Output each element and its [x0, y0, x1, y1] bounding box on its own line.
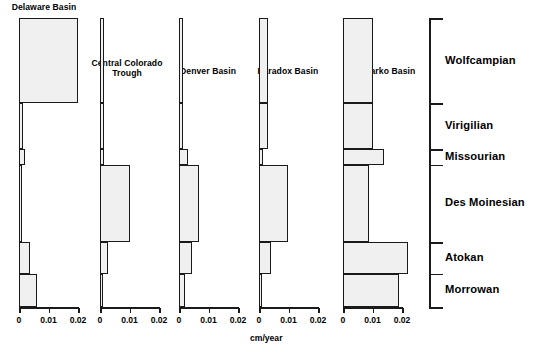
bar-5-des-moinesian: [343, 165, 369, 242]
bar-4-morrowan: [259, 274, 262, 307]
bar-5-morrowan: [343, 274, 399, 307]
x-tick-1-0: [19, 308, 21, 313]
x-tick-2-0: [100, 308, 102, 313]
x-tick-4-0: [259, 308, 261, 313]
stage-bracket-tick-6: [429, 307, 443, 309]
stage-label-virigilian: Virigilian: [445, 119, 493, 131]
bar-5-wolfcampian: [343, 18, 373, 103]
x-tick-4-1: [289, 308, 291, 313]
stage-label-atokan: Atokan: [445, 251, 484, 263]
stage-bracket-tick-4: [429, 242, 443, 244]
bar-4-atokan: [259, 242, 271, 274]
bar-2-missourian: [100, 149, 104, 164]
stage-bracket-tick-3: [429, 165, 443, 167]
bar-1-morrowan: [19, 274, 37, 307]
sedimentation-rate-figure: Delaware Basin00.010.02Central Colorado …: [0, 0, 555, 357]
bar-3-wolfcampian: [179, 18, 183, 103]
stage-bracket-tick-2: [429, 149, 443, 151]
x-tick-2-2: [159, 308, 161, 313]
stage-bracket-tick-1: [429, 103, 443, 105]
bar-3-des-moinesian: [179, 165, 199, 242]
x-tick-5-0: [343, 308, 345, 313]
bar-4-wolfcampian: [259, 18, 268, 103]
bar-1-des-moinesian: [19, 165, 22, 242]
stage-label-morrowan: Morrowan: [445, 283, 499, 295]
x-tick-4-2: [318, 308, 320, 313]
x-tick-2-1: [130, 308, 132, 313]
bar-4-missourian: [259, 149, 263, 164]
x-tick-3-0: [179, 308, 181, 313]
x-tick-1-2: [78, 308, 80, 313]
x-tick-3-2: [238, 308, 240, 313]
bar-2-atokan: [100, 242, 108, 274]
x-axis-unit-label: cm/year: [250, 333, 283, 343]
bar-2-des-moinesian: [100, 165, 130, 242]
panel-title-2: Central Colorado Trough: [87, 58, 167, 79]
bar-5-missourian: [343, 149, 384, 164]
panel-title-1: Delaware Basin: [0, 2, 92, 12]
bar-2-virigilian: [100, 103, 104, 149]
bar-1-missourian: [19, 149, 25, 164]
bar-1-wolfcampian: [19, 18, 78, 103]
bar-1-atokan: [19, 242, 30, 274]
bar-1-virigilian: [19, 103, 23, 149]
bar-4-des-moinesian: [259, 165, 288, 242]
bar-3-virigilian: [179, 103, 183, 149]
bar-4-virigilian: [259, 103, 268, 149]
stage-bracket-spine: [429, 18, 431, 307]
bar-3-morrowan: [179, 274, 185, 307]
bar-5-atokan: [343, 242, 408, 274]
bar-5-virigilian: [343, 103, 373, 149]
x-tick-3-1: [209, 308, 211, 313]
x-ticklabel-5-2: 0.02: [384, 315, 420, 325]
stage-bracket-tick-5: [429, 274, 443, 276]
bar-3-atokan: [179, 242, 192, 274]
stage-label-des-moinesian: Des Moinesian: [445, 196, 525, 208]
bar-2-wolfcampian: [100, 18, 104, 103]
x-tick-5-1: [373, 308, 375, 313]
bar-3-missourian: [179, 149, 188, 164]
bar-2-morrowan: [100, 274, 103, 307]
x-tick-5-2: [402, 308, 404, 313]
stage-bracket-tick-0: [429, 18, 443, 20]
x-tick-1-1: [49, 308, 51, 313]
stage-label-wolfcampian: Wolfcampian: [445, 54, 516, 66]
stage-label-missourian: Missourian: [445, 150, 505, 162]
